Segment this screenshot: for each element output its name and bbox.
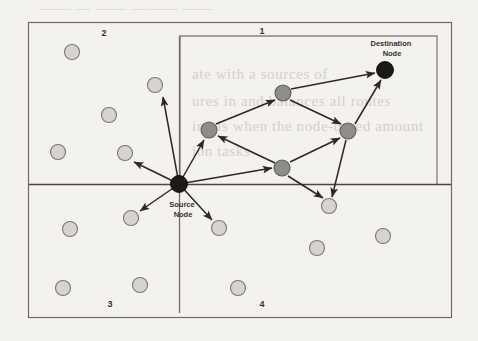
edge-route-node-a-to-route-node-b bbox=[216, 100, 275, 124]
idle-node-13[interactable] bbox=[310, 241, 325, 256]
edge-route-node-c-to-destination bbox=[355, 80, 381, 124]
idle-node-4[interactable] bbox=[51, 145, 66, 160]
network-diagram: 2 1 3 4 Source Node Destination Node bbox=[0, 0, 478, 341]
source-node-label-line2: Node bbox=[174, 210, 193, 219]
route-node-group bbox=[201, 85, 356, 176]
edge-route-node-d-to-idle-node-9 bbox=[288, 176, 323, 198]
quadrant-label-2: 2 bbox=[101, 28, 106, 38]
idle-node-12[interactable] bbox=[231, 281, 246, 296]
destination-node-label-line2: Node bbox=[383, 49, 402, 58]
idle-node-2[interactable] bbox=[148, 78, 163, 93]
destination-node-label-line1: Destination bbox=[371, 39, 412, 48]
idle-node-9[interactable] bbox=[322, 199, 337, 214]
edge-route-node-c-to-idle-node-9 bbox=[332, 140, 346, 197]
route-node-c[interactable] bbox=[340, 123, 356, 139]
route-node-a[interactable] bbox=[201, 122, 217, 138]
edge-source-to-idle-node-2 bbox=[163, 97, 179, 184]
source-node-label: Source Node bbox=[169, 200, 197, 219]
quadrant-label-1: 1 bbox=[259, 26, 264, 36]
quadrant-label-4: 4 bbox=[259, 299, 264, 309]
idle-node-1[interactable] bbox=[65, 45, 80, 60]
route-node-b[interactable] bbox=[275, 85, 291, 101]
idle-node-11[interactable] bbox=[133, 278, 148, 293]
idle-node-14[interactable] bbox=[376, 229, 391, 244]
route-node-d[interactable] bbox=[274, 160, 290, 176]
quadrant-label-3: 3 bbox=[107, 299, 112, 309]
edge-route-node-d-to-route-node-a bbox=[218, 136, 275, 163]
destination-node[interactable] bbox=[377, 62, 394, 79]
idle-node-6[interactable] bbox=[124, 211, 139, 226]
idle-node-3[interactable] bbox=[102, 108, 117, 123]
idle-node-7[interactable] bbox=[63, 222, 78, 237]
idle-node-10[interactable] bbox=[56, 281, 71, 296]
source-node[interactable] bbox=[171, 176, 188, 193]
edge-route-node-b-to-route-node-c bbox=[290, 100, 341, 124]
edge-source-to-route-node-d bbox=[179, 168, 272, 184]
edge-group bbox=[134, 73, 381, 220]
figure-canvas: —— — —— ——— —— ate with a sources of ure… bbox=[0, 0, 478, 341]
quadrant-1-region bbox=[180, 36, 437, 185]
edge-route-node-d-to-route-node-c bbox=[290, 138, 340, 162]
destination-node-label: Destination Node bbox=[371, 39, 414, 58]
edge-route-node-b-to-destination bbox=[291, 73, 375, 89]
idle-node-group bbox=[51, 45, 391, 296]
source-node-label-line1: Source bbox=[169, 200, 194, 209]
idle-node-5[interactable] bbox=[118, 146, 133, 161]
idle-node-8[interactable] bbox=[212, 221, 227, 236]
